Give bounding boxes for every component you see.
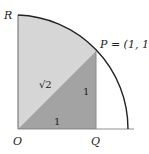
label-P: P = (1, 1) — [99, 38, 149, 51]
label-vertical-side: 1 — [83, 86, 89, 97]
label-O: O — [13, 135, 22, 148]
label-horizontal-side: 1 — [54, 116, 60, 127]
quarter-circle-diagram: R P = (1, 1) O Q √2 1 1 — [0, 0, 149, 154]
label-R: R — [3, 9, 12, 22]
label-hypotenuse: √2 — [39, 79, 52, 90]
label-Q: Q — [91, 135, 100, 148]
